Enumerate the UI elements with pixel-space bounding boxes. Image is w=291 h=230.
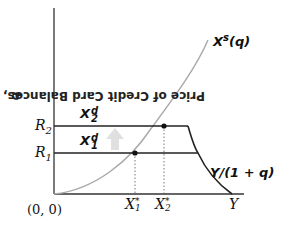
origin-label: (0, 0) xyxy=(27,202,62,217)
x2d-sub: 2 xyxy=(91,115,98,123)
r2-label: R2 xyxy=(35,117,52,136)
x1-star-label: X*1 xyxy=(125,196,141,212)
supply-curve xyxy=(54,40,208,194)
budget-label: Y/(1 + q) xyxy=(210,165,274,180)
equilibrium-point-1 xyxy=(132,150,137,155)
equilibrium-point-2 xyxy=(161,123,166,128)
y-tick-name: Y xyxy=(229,196,238,212)
x2d-label: Xd2 xyxy=(80,106,98,123)
budget-label-text: Y/(1 + q) xyxy=(210,165,274,180)
r1-label: R1 xyxy=(35,144,52,163)
supply-name: X xyxy=(213,34,223,49)
x2d-name: X xyxy=(80,106,90,121)
supply-label: Xs(q) xyxy=(213,32,250,49)
r1-name: R xyxy=(35,144,46,160)
y-axis-label: Price of Credit Card Balances, q xyxy=(0,0,30,230)
x1d-name: X xyxy=(80,133,90,148)
x2-star-name: X xyxy=(155,196,165,212)
up-arrow-icon xyxy=(106,128,124,150)
supply-arg: (q) xyxy=(229,34,250,49)
r1-sub: 1 xyxy=(46,152,52,163)
x2-star-sub: 2 xyxy=(165,205,171,212)
r2-sub: 2 xyxy=(46,125,52,136)
origin-text: (0, 0) xyxy=(27,202,62,217)
x1d-sub: 1 xyxy=(91,142,98,150)
r2-name: R xyxy=(35,117,46,133)
x1-star-sub: 1 xyxy=(135,205,141,212)
y-axis-label-text: Price of Credit Card Balances, xyxy=(3,89,205,103)
budget-curve xyxy=(188,126,232,194)
y-tick-label: Y xyxy=(229,196,238,212)
x1-star-name: X xyxy=(125,196,135,212)
x2-star-label: X*2 xyxy=(155,196,171,212)
x1d-label: Xd1 xyxy=(80,133,98,150)
